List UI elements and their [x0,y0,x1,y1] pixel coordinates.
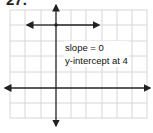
y-intercept-label: y-intercept at 4 [65,54,128,67]
annotation: slope = 0 y-intercept at 4 [64,41,129,67]
slope-label: slope = 0 [65,41,128,54]
y-intercept-point [54,23,58,27]
